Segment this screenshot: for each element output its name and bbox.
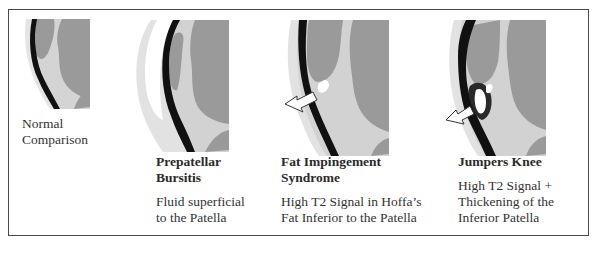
title-line: Syndrome (281, 170, 381, 186)
jumpers-knee-description: High T2 Signal + Thickening of the Infer… (458, 178, 554, 226)
description-line: Fat Inferior to the Patella (281, 210, 422, 226)
title-line: Jumpers Knee (458, 154, 542, 170)
jumpers-knee-illustration (444, 20, 546, 156)
prepatellar-bursitis-illustration (133, 20, 229, 152)
normal-knee-illustration (22, 19, 90, 109)
description-line: High T2 Signal + (458, 178, 554, 194)
description-line: Fluid superficial (156, 194, 245, 210)
fat-impingement-title: Fat Impingement Syndrome (281, 154, 381, 186)
jumpers-knee-title: Jumpers Knee (458, 154, 542, 170)
description-line: Comparison (22, 132, 88, 148)
fat-impingement-illustration (283, 20, 389, 156)
description-line: Inferior Patella (458, 210, 554, 226)
title-line: Bursitis (156, 170, 221, 186)
description-line: Thickening of the (458, 194, 554, 210)
prepatellar-bursitis-description: Fluid superficial to the Patella (156, 194, 245, 226)
description-line: to the Patella (156, 210, 245, 226)
title-line: Prepatellar (156, 154, 221, 170)
prepatellar-bursitis-title: Prepatellar Bursitis (156, 154, 221, 186)
description-line: Normal (22, 116, 88, 132)
fat-impingement-description: High T2 Signal in Hoffa’s Fat Inferior t… (281, 194, 422, 226)
title-line: Fat Impingement (281, 154, 381, 170)
normal-description: Normal Comparison (22, 116, 88, 148)
description-line: High T2 Signal in Hoffa’s (281, 194, 422, 210)
